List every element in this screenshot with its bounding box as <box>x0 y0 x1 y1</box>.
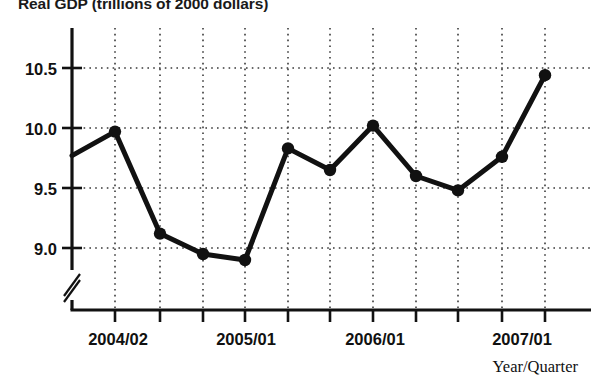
data-point <box>367 119 379 131</box>
x-tick-label: 2004/02 <box>88 330 148 348</box>
data-series-line <box>72 75 545 260</box>
y-tick-label: 10.0 <box>25 120 57 138</box>
y-tick-label: 10.5 <box>25 60 57 78</box>
data-point <box>109 125 121 137</box>
data-point <box>496 151 508 163</box>
y-tick-label: 9.0 <box>34 240 57 258</box>
data-point <box>282 142 294 154</box>
y-axis-tick-labels: 10.5 10.0 9.5 9.0 <box>25 60 57 258</box>
data-point <box>539 69 551 81</box>
data-point <box>197 248 209 260</box>
chart-container: Real GDP (trillions of 2000 dollars) <box>0 0 591 382</box>
gridlines-horizontal <box>72 68 591 248</box>
x-axis-title: Year/Quarter <box>493 357 579 376</box>
data-point <box>324 164 336 176</box>
x-axis-ticks <box>115 310 545 322</box>
x-tick-label: 2006/01 <box>345 330 405 348</box>
data-point <box>154 227 166 239</box>
x-tick-label: 2005/01 <box>216 330 276 348</box>
x-axis-tick-labels: 2004/02 2005/01 2006/01 2007/01 <box>88 330 552 348</box>
data-point <box>410 170 422 182</box>
axis-break-icon <box>64 270 80 302</box>
line-chart-plot: 10.5 10.0 9.5 9.0 2004/02 2005/01 2006/0… <box>0 0 591 382</box>
data-point <box>452 184 464 196</box>
x-tick-label: 2007/01 <box>492 330 552 348</box>
data-point <box>239 254 251 266</box>
y-tick-label: 9.5 <box>34 180 57 198</box>
